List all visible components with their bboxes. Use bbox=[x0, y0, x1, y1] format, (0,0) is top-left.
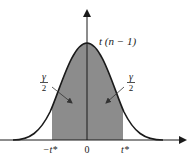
right-fraction-numerator: γ bbox=[129, 71, 134, 82]
tick-label-zero: 0 bbox=[85, 144, 90, 155]
left-fraction-numerator: γ bbox=[42, 71, 47, 82]
right-tail-fraction: γ 2 bbox=[127, 71, 135, 93]
left-tail-fraction: γ 2 bbox=[40, 71, 48, 93]
right-fraction-denominator: 2 bbox=[129, 83, 134, 93]
left-fraction-denominator: 2 bbox=[42, 83, 47, 93]
tick-label-tstar: t* bbox=[121, 144, 129, 155]
shaded-central-region bbox=[13, 43, 163, 140]
t-distribution-diagram: t (n − 1) γ 2 γ 2 −t* 0 t* bbox=[0, 0, 191, 168]
tick-label-neg-tstar: −t* bbox=[43, 144, 58, 155]
curve-label: t (n − 1) bbox=[99, 35, 136, 48]
